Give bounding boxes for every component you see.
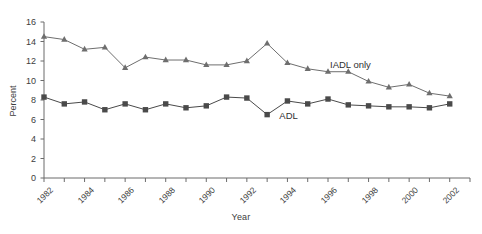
chart-figure: Percent Year 0246810121416 1982198419861… [0, 0, 482, 234]
series-iadl-only [41, 33, 453, 98]
axis-lines [44, 22, 470, 178]
y-ticks [41, 22, 45, 178]
series-adl [41, 94, 452, 117]
x-ticks [44, 178, 470, 182]
plot-area [0, 0, 482, 234]
